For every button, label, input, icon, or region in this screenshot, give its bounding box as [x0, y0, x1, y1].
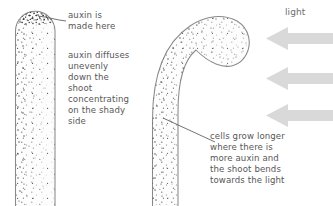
phototropism-diagram: auxin is made here auxin diffuses uneven…: [0, 0, 333, 206]
light-arrow-1: [266, 27, 333, 50]
label-light: light: [285, 7, 305, 18]
label-cells-grow-longer: cells grow longer where there is more au…: [210, 131, 285, 186]
label-auxin-made-here: auxin is made here: [68, 10, 115, 32]
label-auxin-diffuses-unevenly: auxin diffuses unevenly down the shoot c…: [68, 50, 129, 127]
light-arrow-2: [266, 67, 333, 90]
light-arrow-3: [266, 104, 333, 127]
light-arrows-group: [266, 27, 333, 127]
left-shoot-group: [14, 10, 66, 206]
